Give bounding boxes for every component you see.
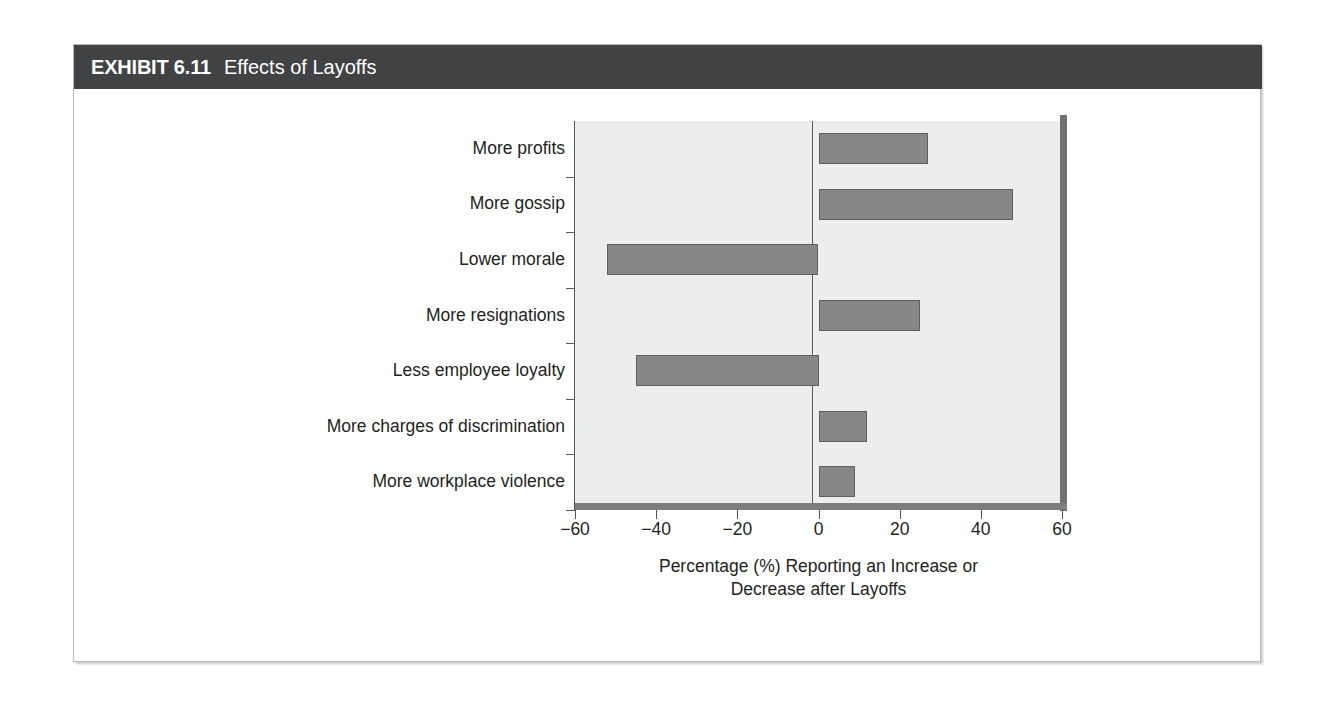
x-axis-tick — [575, 510, 576, 519]
y-axis-line — [574, 121, 575, 510]
x-axis-tick — [656, 510, 657, 519]
bar-row — [575, 399, 1062, 455]
exhibit-title: Effects of Layoffs — [224, 56, 377, 79]
x-axis-tick — [900, 510, 901, 519]
bar — [819, 411, 868, 442]
x-axis-tick-label: 20 — [890, 521, 909, 539]
y-axis-tick — [566, 510, 575, 511]
x-axis-title: Percentage (%) Reporting an Increase or … — [575, 555, 1062, 602]
x-axis-tick — [981, 510, 982, 519]
category-label: Less employee loyalty — [393, 362, 565, 380]
bar-row — [575, 121, 1062, 177]
x-axis-tick-label: −40 — [641, 521, 671, 539]
x-axis-tick-label: 0 — [814, 521, 824, 539]
bar-row — [575, 232, 1062, 288]
bar — [607, 244, 818, 275]
plot-right-edge — [1060, 115, 1067, 511]
x-axis-tick-label: −20 — [722, 521, 752, 539]
bar — [819, 133, 929, 164]
category-label: More charges of discrimination — [327, 418, 565, 436]
bar — [819, 466, 856, 497]
bar-row — [575, 454, 1062, 510]
category-label: More gossip — [470, 195, 565, 213]
x-axis-title-line-2: Decrease after Layoffs — [575, 578, 1062, 601]
y-axis-tick — [566, 288, 575, 289]
bar-chart: More profitsMore gossipLower moraleMore … — [74, 89, 1262, 662]
x-axis-tick — [1062, 510, 1063, 519]
bar-row — [575, 288, 1062, 344]
exhibit-card: EXHIBIT 6.11 Effects of Layoffs More pro… — [73, 44, 1261, 662]
y-axis-tick — [566, 454, 575, 455]
x-axis-tick-label: −60 — [560, 521, 590, 539]
exhibit-header: EXHIBIT 6.11 Effects of Layoffs — [74, 45, 1262, 89]
category-label: More profits — [473, 140, 565, 158]
x-axis-tick-label: 40 — [971, 521, 990, 539]
bar — [819, 300, 920, 331]
x-axis-title-line-1: Percentage (%) Reporting an Increase or — [575, 555, 1062, 578]
y-axis-tick — [566, 177, 575, 178]
exhibit-number: EXHIBIT 6.11 — [91, 56, 211, 79]
plot-area — [575, 121, 1062, 510]
x-axis-tick — [819, 510, 820, 519]
category-label: More workplace violence — [372, 473, 565, 491]
y-axis-tick — [566, 232, 575, 233]
bar — [819, 189, 1014, 220]
x-axis-tick-label: 60 — [1052, 521, 1071, 539]
category-label: Lower morale — [459, 251, 565, 269]
x-axis-tick — [737, 510, 738, 519]
y-axis-tick — [566, 343, 575, 344]
category-label: More resignations — [426, 307, 565, 325]
bar-row — [575, 177, 1062, 233]
bar — [636, 355, 819, 386]
x-axis-bar — [575, 503, 1067, 510]
y-axis-tick — [566, 399, 575, 400]
bar-row — [575, 343, 1062, 399]
